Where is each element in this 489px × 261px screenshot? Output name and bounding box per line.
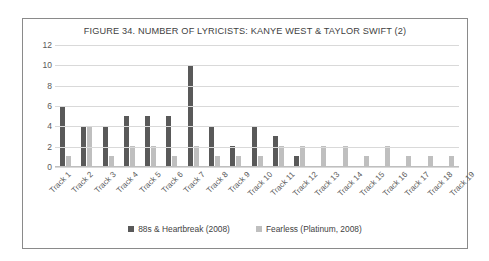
gridline-10 bbox=[55, 65, 459, 66]
x-axis-label-cell: Track 7 bbox=[190, 169, 212, 221]
bar bbox=[449, 156, 454, 166]
x-axis-label-cell: Track 4 bbox=[122, 169, 144, 221]
bar bbox=[194, 146, 199, 166]
bar bbox=[151, 146, 156, 166]
bar bbox=[273, 136, 278, 166]
bar bbox=[279, 146, 284, 166]
bar bbox=[321, 146, 326, 166]
y-axis-tick-4: 4 bbox=[47, 121, 52, 131]
legend-swatch-icon bbox=[256, 226, 262, 232]
bar bbox=[230, 146, 235, 166]
bar bbox=[172, 156, 177, 166]
bar bbox=[364, 156, 369, 166]
gridline-12 bbox=[55, 45, 459, 46]
y-axis-tick-8: 8 bbox=[47, 81, 52, 91]
gridline-2 bbox=[55, 147, 459, 148]
legend-item[interactable]: Fearless (Platinum, 2008) bbox=[256, 224, 362, 234]
gridline-8 bbox=[55, 86, 459, 87]
legend-item[interactable]: 88s & Heartbreak (2008) bbox=[128, 224, 230, 234]
bar bbox=[294, 156, 299, 166]
bar bbox=[109, 156, 114, 166]
bar bbox=[343, 146, 348, 166]
x-axis-label-cell: Track 2 bbox=[77, 169, 99, 221]
y-axis-tick-0: 0 bbox=[47, 162, 52, 172]
legend-swatch-icon bbox=[128, 226, 134, 232]
plot-wrapper: 121086420 bbox=[33, 45, 459, 167]
gridline-6 bbox=[55, 106, 459, 107]
y-axis-tick-12: 12 bbox=[43, 40, 52, 50]
gridline-4 bbox=[55, 126, 459, 127]
x-axis-labels: Track 1Track 2Track 3Track 4Track 5Track… bbox=[55, 169, 481, 221]
x-axis-label-cell: Track 1 bbox=[55, 169, 77, 221]
bar bbox=[66, 156, 71, 166]
bar bbox=[236, 156, 241, 166]
y-axis: 121086420 bbox=[33, 45, 55, 167]
chart-title: FIGURE 34. NUMBER OF LYRICISTS: KANYE WE… bbox=[23, 26, 467, 36]
bar bbox=[145, 116, 150, 166]
bar bbox=[188, 65, 193, 166]
bar bbox=[60, 106, 65, 167]
bar bbox=[124, 116, 129, 166]
y-axis-tick-10: 10 bbox=[43, 60, 52, 70]
x-axis-label-cell: Track 19 bbox=[459, 169, 481, 221]
bar bbox=[258, 156, 263, 166]
bar bbox=[130, 146, 135, 166]
bar bbox=[385, 146, 390, 166]
x-axis-label: Track 1 bbox=[48, 170, 73, 195]
bar bbox=[406, 156, 411, 166]
plot-area bbox=[55, 45, 459, 167]
bar bbox=[166, 116, 171, 166]
figure-frame: FIGURE 34. NUMBER OF LYRICISTS: KANYE WE… bbox=[22, 18, 468, 249]
bar bbox=[428, 156, 433, 166]
legend-label: Fearless (Platinum, 2008) bbox=[266, 224, 362, 234]
x-axis-label-cell: Track 8 bbox=[212, 169, 234, 221]
x-axis-label-cell: Track 6 bbox=[167, 169, 189, 221]
y-axis-tick-2: 2 bbox=[47, 142, 52, 152]
x-axis-label-cell: Track 3 bbox=[100, 169, 122, 221]
bar bbox=[215, 156, 220, 166]
y-axis-tick-6: 6 bbox=[47, 101, 52, 111]
legend-label: 88s & Heartbreak (2008) bbox=[138, 224, 230, 234]
x-axis-label-cell: Track 5 bbox=[145, 169, 167, 221]
gridline-0 bbox=[55, 167, 459, 168]
chart-legend: 88s & Heartbreak (2008)Fearless (Platinu… bbox=[23, 224, 467, 234]
bar bbox=[300, 146, 305, 166]
